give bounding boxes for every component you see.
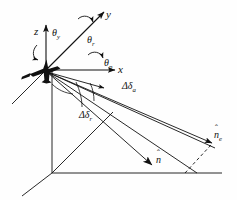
roll-angle-label: θr: [87, 35, 95, 48]
figure-root: z y x θy θr θp Δδa Δδr ˆn ˆne: [0, 0, 237, 200]
range-delta-glyph: Δδ: [79, 109, 90, 120]
effective-pointing-vector-label: ˆne: [214, 130, 222, 143]
ne-subscript: e: [219, 135, 222, 142]
yaw-subscript: y: [57, 33, 60, 40]
pitch-angle-label: θp: [104, 58, 112, 71]
range-offset-label: Δδr: [79, 110, 92, 123]
yaw-angle-label: θy: [52, 28, 60, 41]
yaw-rotation-arc: [33, 45, 38, 60]
pitch-subscript: p: [109, 63, 112, 70]
azimuth-offset-label: Δδa: [122, 81, 136, 94]
azimuth-delta-glyph: Δδ: [122, 80, 133, 91]
roll-subscript: r: [92, 40, 95, 47]
hat-accent-icon-effective: ˆ: [215, 124, 218, 133]
y-axis-line: [46, 12, 104, 70]
pitch-rotation-arc: [88, 52, 103, 58]
ground-oblique-line: [22, 173, 52, 196]
beam-to-nominal-vector: [47, 72, 152, 165]
effective-vector-projection-dashed: [185, 145, 211, 173]
aircraft-icon: [21, 60, 60, 84]
z-axis-label: z: [34, 26, 38, 37]
x-axis-label: x: [118, 64, 123, 75]
ne-hat-stack: ˆn: [214, 130, 219, 140]
range-subscript: r: [90, 115, 93, 122]
y-axis-label: y: [106, 9, 111, 20]
nominal-pointing-vector-label: ˆn: [156, 155, 161, 165]
body-frame-axes: [12, 12, 115, 104]
azimuth-subscript: a: [133, 86, 136, 93]
hat-accent-icon: ˆ: [157, 149, 160, 158]
n-hat-stack: ˆn: [156, 155, 161, 165]
roll-rotation-arc: [78, 16, 93, 22]
